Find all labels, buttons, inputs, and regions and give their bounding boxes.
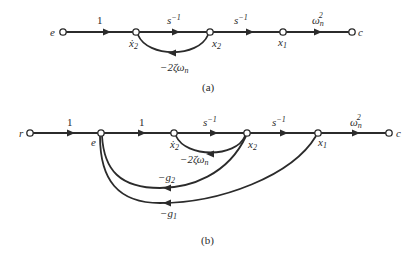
label-node-x1: x1 bbox=[277, 36, 287, 50]
edge-feedback-x2-to-x2dot bbox=[176, 136, 245, 153]
caption-b: (b) bbox=[201, 234, 214, 247]
label-node-e: e bbox=[91, 136, 96, 148]
arrow-icon bbox=[314, 29, 322, 36]
gain-feedback-x1-to-e: −g1 bbox=[160, 207, 177, 221]
node-x2dot bbox=[133, 29, 139, 35]
arrow-icon bbox=[168, 50, 176, 57]
arrow-icon bbox=[163, 185, 171, 192]
gain-e-to-x2dot: 1 bbox=[97, 14, 103, 26]
arrow-icon bbox=[246, 29, 254, 36]
node-x2dot bbox=[171, 130, 177, 136]
arrow-icon bbox=[163, 200, 171, 207]
node-r bbox=[27, 130, 33, 136]
label-node-r: r bbox=[19, 127, 24, 139]
edge-feedback-x1-to-e bbox=[100, 136, 316, 203]
label-node-x2: x2 bbox=[211, 37, 221, 51]
diagram-b: r e ẋ2 x2 x1 c 1 1 s−1 s−1 ωn2 −2ζωn −g2… bbox=[19, 113, 401, 247]
gain-feedback-x2-to-e: −g2 bbox=[158, 171, 175, 185]
label-node-x2: x2 bbox=[247, 138, 257, 152]
gain-feedback-x2-to-x2dot: −2ζωn bbox=[180, 153, 209, 167]
arrow-icon bbox=[352, 130, 360, 137]
node-e bbox=[60, 29, 66, 35]
arrow-icon bbox=[210, 130, 218, 137]
gain-e-to-x2dot: 1 bbox=[139, 116, 145, 128]
label-node-c: c bbox=[396, 127, 401, 139]
gain-x1-to-c: ωn2 bbox=[312, 11, 324, 28]
edge-feedback-x2-to-x2dot bbox=[138, 35, 208, 52]
node-x1 bbox=[280, 29, 286, 35]
arrow-icon bbox=[280, 130, 288, 137]
arrow-icon bbox=[138, 130, 146, 137]
gain-x2-to-x1: s−1 bbox=[272, 115, 286, 128]
gain-x2dot-to-x2: s−1 bbox=[167, 13, 181, 26]
gain-x2dot-to-x2: s−1 bbox=[203, 115, 217, 128]
node-c bbox=[349, 29, 355, 35]
node-x2 bbox=[244, 130, 250, 136]
label-node-x2dot: ẋ2 bbox=[128, 37, 138, 51]
gain-x1-to-c: ωn2 bbox=[350, 113, 362, 130]
gain-feedback-x2-to-x2dot: −2ζωn bbox=[160, 61, 189, 75]
diagram-a: e ẋ2 x2 x1 c 1 s−1 s−1 ωn2 −2ζωn (a) bbox=[50, 11, 363, 94]
label-node-x1: x1 bbox=[317, 136, 327, 150]
gain-r-to-e: 1 bbox=[67, 116, 73, 128]
gain-x2-to-x1: s−1 bbox=[234, 13, 248, 26]
arrow-icon bbox=[103, 29, 111, 36]
label-node-e: e bbox=[50, 26, 55, 38]
node-e bbox=[98, 130, 104, 136]
node-c bbox=[386, 130, 392, 136]
node-x2 bbox=[207, 29, 213, 35]
arrow-icon bbox=[172, 29, 180, 36]
signal-flow-graphs: e ẋ2 x2 x1 c 1 s−1 s−1 ωn2 −2ζωn (a) bbox=[0, 0, 420, 258]
arrow-icon bbox=[67, 130, 75, 137]
caption-a: (a) bbox=[202, 81, 215, 94]
label-node-c: c bbox=[358, 26, 363, 38]
